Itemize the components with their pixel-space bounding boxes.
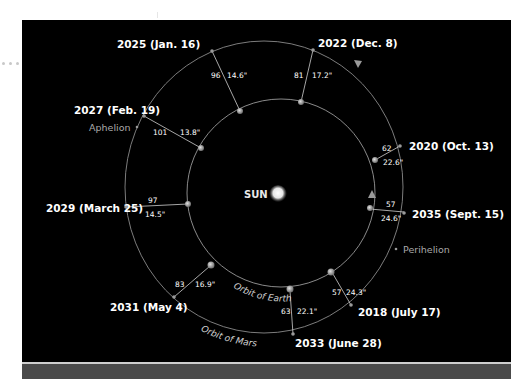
angular-size-value: 14.6"	[227, 71, 247, 80]
distance-value: 57	[332, 288, 342, 297]
distance-value: 81	[294, 71, 304, 80]
earth-icon	[298, 99, 304, 105]
mars-dot	[349, 303, 353, 307]
perihelion-dot	[395, 248, 398, 251]
opposition-label: 2020 (Oct. 13)	[409, 140, 494, 152]
distance-value: 97	[148, 196, 158, 205]
mars-dot	[291, 332, 295, 336]
angular-size-value: 17.2"	[312, 71, 332, 80]
earth-icon	[208, 262, 215, 269]
mars-oppositions-diagram: SUN 2025	[0, 0, 511, 379]
earth-icon	[237, 108, 243, 114]
mars-orbit-label: Orbit of Mars	[200, 323, 258, 348]
earth-orbit-label-text: Orbit of Earth	[232, 280, 292, 303]
opposition-label: 2027 (Feb. 19)	[74, 104, 160, 116]
angular-size-value: 14.5"	[145, 210, 165, 219]
earth-icon	[367, 205, 373, 211]
mars-dot	[210, 49, 214, 53]
earth-icon	[198, 145, 204, 151]
earth-orbit-label: Orbit of Earth	[232, 280, 292, 303]
distance-value: 101	[153, 128, 168, 137]
sun-label: SUN	[244, 189, 268, 200]
opposition-label: 2018 (July 17)	[358, 306, 441, 318]
direction-arrow-icon	[354, 60, 362, 68]
opposition-label: 2022 (Dec. 8)	[318, 37, 398, 49]
opposition-label: 2029 (March 25)	[46, 202, 143, 214]
earth-icon	[328, 269, 335, 276]
opposition-label: 2033 (June 28)	[295, 337, 382, 349]
angular-size-value: 24.3"	[346, 288, 366, 297]
mars-dot	[398, 144, 402, 148]
distance-value: 83	[175, 280, 185, 289]
distance-value: 57	[386, 200, 396, 209]
opposition-label: 2035 (Sept. 15)	[412, 208, 504, 220]
mars-orbit-label-text: Orbit of Mars	[200, 323, 258, 348]
earth-icon	[185, 201, 191, 207]
mars-dot	[311, 48, 315, 52]
earth-icon	[287, 286, 294, 293]
angular-size-value: 22.6"	[383, 158, 403, 167]
distance-value: 63	[281, 307, 291, 316]
opposition-label: 2031 (May 4)	[110, 301, 188, 313]
sun-icon	[269, 185, 287, 203]
angular-size-value: 13.8"	[180, 128, 200, 137]
opposition-label: 2025 (Jan. 16)	[117, 38, 200, 50]
angular-size-value: 22.1"	[297, 307, 317, 316]
mars-dot	[172, 295, 176, 299]
perihelion-label: Perihelion	[403, 244, 450, 255]
mars-dot	[402, 211, 406, 215]
distance-value: 96	[211, 71, 221, 80]
angular-size-value: 16.9"	[195, 280, 215, 289]
aphelion-label: Aphelion	[89, 122, 131, 133]
distance-value: 62	[382, 144, 392, 153]
earth-icon	[372, 157, 378, 163]
aphelion-dot	[136, 126, 139, 129]
angular-size-value: 24.6"	[381, 214, 401, 223]
